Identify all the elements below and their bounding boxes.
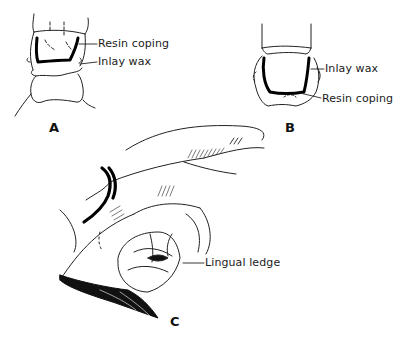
label-lingual-ledge: Lingual ledge bbox=[205, 256, 280, 269]
label-inlay-wax-a: Inlay wax bbox=[98, 55, 151, 68]
panel-letter-b: B bbox=[285, 120, 295, 135]
label-resin-coping-b: Resin coping bbox=[322, 92, 393, 105]
panel-letter-a: A bbox=[49, 120, 59, 135]
diagram-artwork bbox=[0, 0, 402, 339]
label-resin-coping-a: Resin coping bbox=[98, 37, 169, 50]
label-inlay-wax-b: Inlay wax bbox=[325, 62, 378, 75]
panel-a-drawing bbox=[15, 14, 95, 116]
panel-letter-c: C bbox=[170, 314, 180, 329]
